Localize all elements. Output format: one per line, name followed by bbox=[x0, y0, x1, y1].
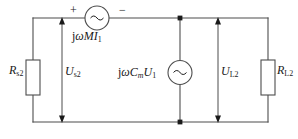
top-source-label: jωMI1 bbox=[72, 30, 102, 44]
polarity-minus-sign: − bbox=[119, 4, 126, 16]
left-voltage-label: Us2 bbox=[65, 65, 81, 79]
top-source-subscript-text: 1 bbox=[98, 35, 102, 44]
right-voltage-symbol-text: U bbox=[221, 64, 230, 78]
middle-source-u-text: U bbox=[144, 65, 153, 79]
middle-source-omega-text: ω bbox=[121, 65, 129, 79]
right-voltage-label: UL2 bbox=[221, 65, 238, 79]
top-source-omega-text: ω bbox=[75, 29, 83, 43]
right-voltage-subscript-text: L2 bbox=[230, 70, 239, 79]
right-resistor-symbol bbox=[261, 60, 275, 95]
node-dot-bottom bbox=[178, 120, 183, 125]
left-resistor-label: Rs2 bbox=[9, 64, 23, 78]
node-dot-top bbox=[178, 16, 183, 21]
top-source-main-text: MI bbox=[84, 29, 98, 43]
circuit-diagram: + − Rs2 Us2 jωMI1 jωCmU1 UL2 RL2 bbox=[0, 0, 298, 139]
polarity-plus-sign: + bbox=[70, 4, 77, 16]
right-resistor-label: RL2 bbox=[277, 64, 293, 78]
middle-source-label: jωCmU1 bbox=[118, 66, 156, 80]
left-voltage-subscript-text: s2 bbox=[74, 70, 81, 79]
left-voltage-symbol-text: U bbox=[65, 64, 74, 78]
left-resistor-subscript-text: s2 bbox=[16, 69, 23, 78]
middle-source-c-text: C bbox=[130, 65, 138, 79]
middle-source-u-subscript-text: 1 bbox=[152, 71, 156, 80]
right-resistor-subscript-text: L2 bbox=[284, 69, 293, 78]
left-resistor-symbol bbox=[26, 60, 40, 95]
